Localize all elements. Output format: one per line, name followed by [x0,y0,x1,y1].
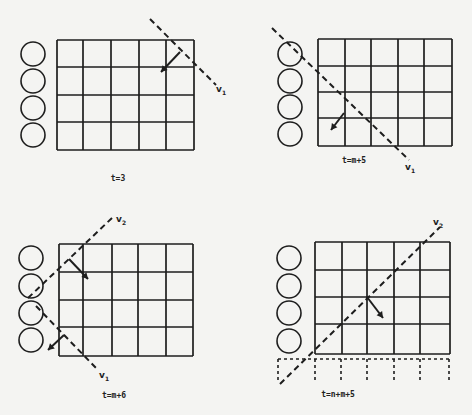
wavefront-label: v1 [99,370,109,382]
boundary-cell-circle [277,329,301,353]
time-step-caption: t=m+5 [342,156,366,165]
panel-tm6: v2v1t=m+6 [19,214,193,400]
boundary-cell-circle [21,42,45,66]
panel-tnm5: v2t=n+m+5 [277,217,450,399]
wavefront-label: v1 [216,84,226,96]
processor-grid [57,40,194,150]
wavefront-label: v2 [433,217,443,229]
time-step-caption: t=m+6 [102,391,126,400]
boundary-cell-circle [278,122,302,146]
wavefront-dashed-line [150,19,216,85]
boundary-cell-circle [19,301,43,325]
boundary-cell-circle [21,69,45,93]
wavefront-v1: v1 [36,306,109,382]
boundary-cell-circle [21,123,45,147]
dashed-grid-row [278,359,449,383]
wavefront-label: v2 [116,214,126,226]
wavefront-dashed-line [280,227,440,384]
wavefront-v1: v1 [272,28,415,174]
boundary-cell-circle [278,95,302,119]
processor-grid [315,242,450,354]
systolic-array-diagram: v1t=3v1t=m+5v2v1t=m+6v2t=n+m+5 [0,0,472,415]
diagram-canvas: v1t=3v1t=m+5v2v1t=m+6v2t=n+m+5 [0,0,472,415]
panel-tm5: v1t=m+5 [272,28,452,174]
processor-grid [59,244,193,356]
boundary-cell-circle [277,274,301,298]
time-step-caption: t=3 [111,174,126,183]
boundary-cell-circle [278,69,302,93]
wavefront-dashed-line [272,28,409,160]
wavefront-label: v1 [405,162,415,174]
time-step-caption: t=n+m+5 [321,390,355,399]
panel-t3: v1t=3 [21,19,226,183]
boundary-cell-circle [277,301,301,325]
boundary-cell-circle [21,96,45,120]
wavefront-v1: v1 [150,19,226,96]
wavefront-dashed-line [28,218,112,298]
boundary-cell-circle [277,246,301,270]
wavefront-dashed-line [36,306,96,368]
boundary-cell-circle [19,246,43,270]
boundary-cell-circle [19,328,43,352]
